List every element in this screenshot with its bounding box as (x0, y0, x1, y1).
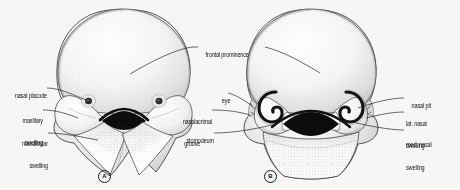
panel-label-a: A (98, 170, 111, 183)
label-eye-text: eye (222, 97, 230, 104)
label-nasolacrimal-groove-line1: nasolacrimal (172, 118, 212, 125)
label-frontal-prominence[interactable]: frontal prominence (200, 44, 249, 66)
label-stomodeum-text: stomodeum (186, 137, 214, 144)
embryo-face-figure: nasal placode maxillary swelling mandibu… (0, 0, 460, 190)
panel-label-b: B (264, 170, 277, 183)
nasal-placode-a-right (152, 95, 166, 108)
label-nasal-placode-text: nasal placode (15, 92, 47, 99)
label-frontal-prominence-text: frontal prominence (206, 51, 249, 58)
label-med-nasal-swelling[interactable]: med. nasal swelling (406, 127, 432, 186)
nasal-placode-a-left (81, 95, 95, 108)
figure-artwork (0, 0, 460, 190)
label-mandibular-swelling-line2: swelling (7, 162, 48, 169)
label-mandibular-swelling[interactable]: mandibular swelling (7, 125, 48, 184)
label-maxillary-swelling-line1: maxillary (6, 117, 43, 124)
label-med-nasal-swelling-line2: swelling (406, 164, 432, 171)
label-mandibular-swelling-line1: mandibular (7, 140, 48, 147)
label-stomodeum[interactable]: stomodeum (180, 130, 214, 152)
label-med-nasal-swelling-line1: med. nasal (406, 141, 432, 148)
label-eye[interactable]: eye (216, 90, 230, 112)
